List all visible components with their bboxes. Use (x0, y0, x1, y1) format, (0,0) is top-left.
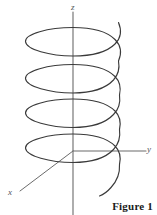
figure-container: z y x Figure 1 (0, 0, 157, 215)
y-axis-label: y (147, 145, 151, 154)
figure-caption: Figure 1 (112, 200, 153, 212)
x-axis-label: x (8, 188, 12, 197)
x-axis-line (20, 151, 73, 191)
z-axis-label: z (71, 3, 75, 12)
helix-diagram (0, 0, 157, 215)
